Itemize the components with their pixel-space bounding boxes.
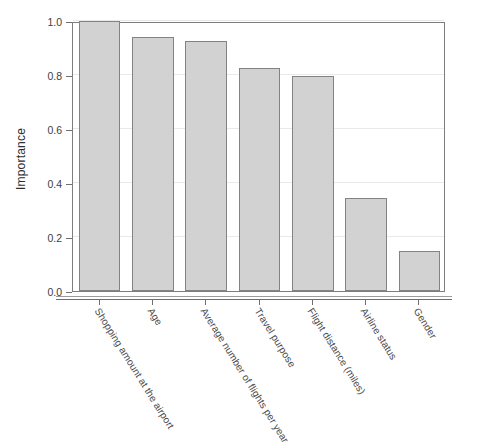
y-tick-label: 0.8 xyxy=(47,71,62,81)
x-tick-mark xyxy=(365,299,366,305)
bar xyxy=(399,251,441,292)
y-tick-mark xyxy=(66,292,72,293)
y-axis-title-label: Importance xyxy=(14,176,28,190)
y-axis: Importance 0.00.20.40.60.81.0 xyxy=(0,0,72,300)
bar xyxy=(239,68,281,291)
x-tick-label: Average number of flights per year xyxy=(199,306,291,445)
x-tick-label: Gender xyxy=(412,306,439,341)
y-tick-label: 1.0 xyxy=(47,17,62,27)
x-tick-mark xyxy=(152,299,153,305)
x-tick-mark xyxy=(312,299,313,305)
bar xyxy=(132,37,174,291)
x-tick-mark xyxy=(259,299,260,305)
x-tick-label: Airline status xyxy=(359,306,399,362)
y-axis-title: Importance xyxy=(14,90,28,104)
x-tick-label: Age xyxy=(146,306,165,327)
y-tick-label: 0.6 xyxy=(47,125,62,135)
gridline-1.0 xyxy=(73,20,444,21)
bar xyxy=(292,76,334,291)
x-axis-inner-line xyxy=(56,296,452,297)
bar xyxy=(345,198,387,291)
plot-area xyxy=(72,22,445,292)
x-tick-mark xyxy=(99,299,100,305)
x-tick-label: Shopping amount at the airport xyxy=(92,306,176,431)
bar xyxy=(79,21,121,291)
x-axis-line xyxy=(56,299,452,300)
x-tick-label: Travel purpose xyxy=(252,306,297,369)
y-tick-label: 0.4 xyxy=(47,179,62,189)
x-tick-mark xyxy=(418,299,419,305)
variable-importance-bar-chart: Importance 0.00.20.40.60.81.0 Shopping a… xyxy=(0,0,480,448)
y-tick-label: 0.2 xyxy=(47,233,62,243)
x-tick-label: Flight distance (miles) xyxy=(305,306,367,396)
bar xyxy=(185,41,227,291)
x-tick-mark xyxy=(205,299,206,305)
bars-group xyxy=(73,23,444,291)
